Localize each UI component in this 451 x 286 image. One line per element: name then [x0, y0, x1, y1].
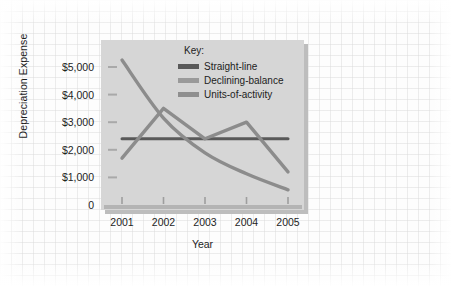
legend-item-label: Declining-balance	[204, 75, 284, 86]
legend-swatch-icon	[178, 78, 199, 83]
legend-title: Key:	[184, 45, 302, 56]
legend-item-label: Units-of-activity	[204, 89, 272, 100]
chart-legend: Key: Straight-lineDeclining-balanceUnits…	[178, 45, 302, 101]
legend-swatch-icon	[178, 64, 199, 69]
legend-swatch-icon	[178, 92, 199, 97]
legend-item: Declining-balance	[178, 73, 302, 87]
legend-item: Straight-line	[178, 59, 302, 73]
legend-item: Units-of-activity	[178, 87, 302, 101]
legend-item-label: Straight-line	[204, 61, 257, 72]
depreciation-methods-line-chart: Depreciation Expense $5,000$4,000$3,000$…	[0, 0, 451, 286]
plot-area	[0, 0, 451, 286]
